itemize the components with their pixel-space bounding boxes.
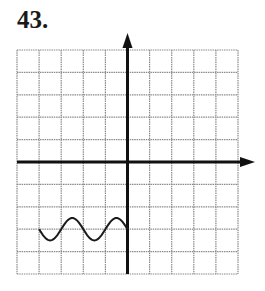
y-axis-arrow-icon xyxy=(123,33,133,48)
axes xyxy=(17,33,255,274)
x-axis-arrow-icon xyxy=(240,157,255,167)
graph xyxy=(0,0,265,291)
